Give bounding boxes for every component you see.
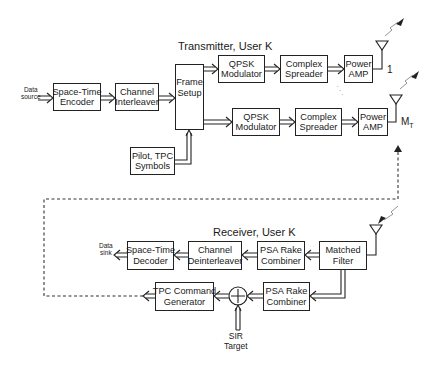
block-label: Symbols bbox=[135, 161, 170, 172]
space-time-decoder-block: Space-Time Decoder bbox=[127, 241, 174, 270]
sir-target-label: SIR Target bbox=[224, 331, 248, 351]
block-label: Channel bbox=[120, 87, 154, 98]
tx-signal-icons bbox=[385, 22, 413, 89]
qpsk-modulator-m-block: QPSK Modulator bbox=[232, 108, 280, 136]
complex-spreader-m-block: Complex Spreader bbox=[295, 108, 342, 136]
block-label: Setup bbox=[177, 88, 201, 99]
antenna-mt-label: MT bbox=[401, 116, 414, 129]
block-label: AMP bbox=[363, 122, 383, 133]
block-label: Interleaver bbox=[115, 97, 158, 108]
rx-signal-icon bbox=[384, 206, 398, 220]
block-label: Generator bbox=[164, 297, 205, 308]
block-label: Filter bbox=[333, 256, 353, 267]
frame-setup-block: Frame Setup bbox=[175, 64, 204, 130]
qpsk-modulator-1-block: QPSK Modulator bbox=[218, 55, 265, 83]
block-label: Space-Time bbox=[126, 245, 175, 256]
block-label: Space-Time bbox=[52, 87, 101, 98]
space-time-encoder-block: Space-Time Encoder bbox=[53, 83, 101, 111]
channel-interleaver-block: Channel Interleaver bbox=[115, 83, 159, 111]
complex-spreader-1-block: Complex Spreader bbox=[280, 55, 328, 83]
block-label: Encoder bbox=[60, 97, 94, 108]
tx-signal-arrowhead-1 bbox=[396, 18, 404, 26]
matched-filter-block: Matched Filter bbox=[319, 241, 367, 270]
antenna-1-label: 1 bbox=[387, 64, 393, 75]
pilot-tpc-symbols-block: Pilot, TPC Symbols bbox=[130, 147, 175, 175]
block-label: QPSK bbox=[229, 59, 255, 70]
power-amp-1-block: Power AMP bbox=[344, 55, 373, 83]
block-label: Modulator bbox=[236, 122, 277, 133]
data-sink-line2: sink bbox=[99, 249, 113, 256]
block-label: Spreader bbox=[300, 122, 338, 133]
block-label: Channel bbox=[198, 245, 232, 256]
data-source-line2: source bbox=[21, 93, 41, 100]
receiver-title: Receiver, User K bbox=[213, 226, 296, 238]
block-label: Matched bbox=[325, 245, 360, 256]
block-label: Complex bbox=[300, 112, 336, 123]
block-label: Combiner bbox=[261, 256, 301, 267]
mt-sub: T bbox=[409, 122, 413, 129]
block-label: Spreader bbox=[285, 69, 323, 80]
data-source-line1: Data bbox=[21, 86, 41, 93]
data-sink-line1: Data bbox=[99, 242, 113, 249]
block-label: PSA Rake bbox=[266, 286, 308, 297]
data-sink-label: Data sink bbox=[99, 242, 113, 256]
power-amp-m-block: Power AMP bbox=[358, 108, 388, 136]
sir-line2: Target bbox=[224, 341, 248, 351]
block-label: Combiner bbox=[267, 297, 307, 308]
block-label: Modulator bbox=[221, 69, 262, 80]
block-label: Decoder bbox=[133, 256, 168, 267]
feedback-arrowhead bbox=[394, 145, 402, 152]
block-diagram: Transmitter, User K Data source Space-Ti… bbox=[0, 0, 439, 367]
data-source-label: Data source bbox=[21, 86, 41, 100]
psa-rake-combiner-2-block: PSA Rake Combiner bbox=[263, 282, 310, 311]
sir-line1: SIR bbox=[224, 331, 248, 341]
block-label: TPC Command bbox=[153, 286, 216, 297]
block-label: AMP bbox=[349, 69, 369, 80]
block-label: Frame bbox=[176, 77, 203, 88]
block-label: PSA Rake bbox=[260, 245, 302, 256]
transmitter-title: Transmitter, User K bbox=[178, 40, 272, 52]
block-label: QPSK bbox=[243, 112, 269, 123]
block-label: Complex bbox=[286, 59, 322, 70]
psa-rake-combiner-1-block: PSA Rake Combiner bbox=[257, 241, 305, 270]
tpc-command-generator-block: TPC Command Generator bbox=[155, 282, 214, 311]
block-label: Pilot, TPC bbox=[132, 151, 173, 162]
tx-signal-arrowhead-2 bbox=[411, 71, 419, 79]
block-label: Deinterleaver bbox=[188, 256, 243, 267]
block-label: Power bbox=[345, 59, 371, 70]
block-label: Power bbox=[360, 112, 386, 123]
channel-deinterleaver-block: Channel Deinterleaver bbox=[188, 241, 242, 270]
